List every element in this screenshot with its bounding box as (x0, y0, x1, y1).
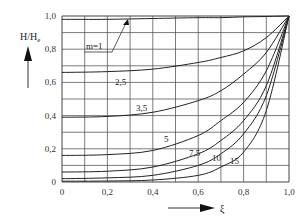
svg-text:0,8: 0,8 (238, 187, 250, 197)
y-axis-label: H/He (20, 31, 40, 44)
curve-label-5: 5 (164, 134, 169, 144)
svg-text:0,4: 0,4 (147, 187, 159, 197)
svg-text:0,4: 0,4 (45, 111, 57, 121)
curve-label-3-5: 3,5 (136, 103, 148, 113)
svg-text:0,2: 0,2 (45, 144, 56, 154)
svg-text:0: 0 (60, 187, 65, 197)
curve-label-10: 10 (212, 153, 222, 163)
svg-text:1,0: 1,0 (45, 11, 57, 21)
curve-label-7-5: 7,5 (189, 148, 201, 158)
m1-annotation: m=1 (84, 19, 129, 52)
x-axis-arrow-icon (168, 204, 215, 212)
chart: 00,20,40,60,81,000,20,40,60,81,0 H/He ξ … (0, 0, 308, 221)
svg-text:0,6: 0,6 (45, 77, 57, 87)
svg-text:0,2: 0,2 (102, 187, 113, 197)
curve-label-15: 15 (230, 156, 240, 166)
curve-label-2-5: 2,5 (115, 77, 127, 87)
svg-text:0,8: 0,8 (45, 44, 57, 54)
svg-text:1,0: 1,0 (283, 187, 295, 197)
x-axis-label: ξ (220, 203, 225, 215)
svg-text:m=1: m=1 (86, 41, 103, 51)
svg-text:0,6: 0,6 (193, 187, 205, 197)
tick-labels: 00,20,40,60,81,000,20,40,60,81,0 (45, 11, 295, 197)
y-axis-arrow-icon (24, 46, 32, 88)
svg-text:0: 0 (52, 177, 57, 187)
